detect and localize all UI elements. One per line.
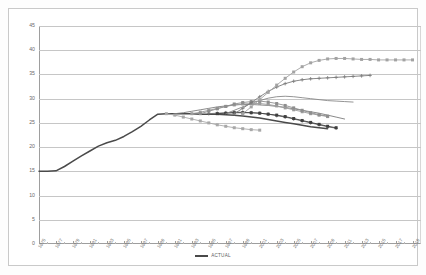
legend-swatch-actual <box>195 255 208 257</box>
chart-frame: 051015202530354045 197519771979198119831… <box>8 8 418 266</box>
series-7 <box>226 96 353 113</box>
series-0 <box>39 114 328 172</box>
series-1 <box>165 112 261 131</box>
chart-figure: 051015202530354045 197519771979198119831… <box>0 0 426 275</box>
y-tick-45: 45 <box>29 23 35 28</box>
y-tick-10: 10 <box>29 193 35 198</box>
y-tick-5: 5 <box>32 217 35 222</box>
y-tick-15: 15 <box>29 169 35 174</box>
y-tick-0: 0 <box>32 241 35 246</box>
y-tick-25: 25 <box>29 120 35 125</box>
y-tick-30: 30 <box>29 96 35 101</box>
series-9 <box>241 57 414 115</box>
legend-label-actual: ACTUAL <box>211 254 230 259</box>
y-tick-35: 35 <box>29 72 35 77</box>
chart-legend: ACTUAL <box>9 254 417 259</box>
y-tick-20: 20 <box>29 145 35 150</box>
plot-area: 051015202530354045 197519771979198119831… <box>39 26 421 244</box>
series-lines <box>39 26 421 244</box>
y-tick-40: 40 <box>29 48 35 53</box>
series-3 <box>190 102 329 118</box>
